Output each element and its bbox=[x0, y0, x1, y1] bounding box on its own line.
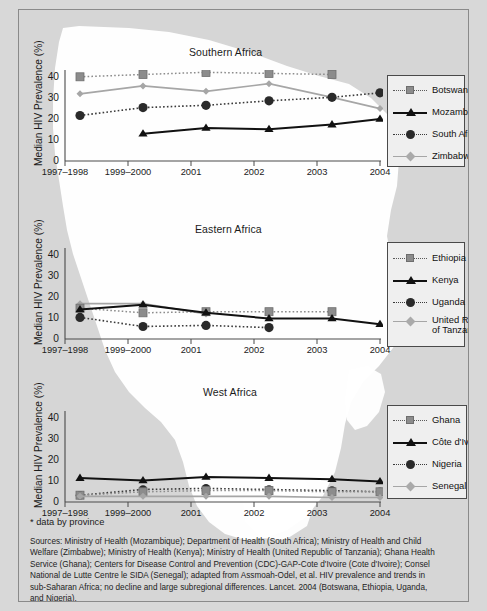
x-tick-2-southern: 2001 bbox=[166, 167, 216, 177]
y-axis-label-southern: Median HIV Prevalence (%) bbox=[33, 40, 44, 166]
y-tick-0-eastern: 0 bbox=[39, 334, 59, 344]
y-tick-0-west: 0 bbox=[39, 497, 59, 507]
x-tick-3-southern: 2002 bbox=[229, 167, 279, 177]
legend-row-botswana[interactable]: Botswana bbox=[393, 83, 469, 97]
legend-label-nigeria: Nigeria bbox=[432, 459, 462, 470]
x-tick-5-southern: 2004 bbox=[355, 167, 405, 177]
x-tick-4-west: 2003 bbox=[292, 508, 342, 518]
legend-row-tanzania[interactable]: United Rep. of Tanzania bbox=[393, 315, 469, 339]
legend-label-mozambique: Mozambique bbox=[432, 107, 469, 118]
legend-label-botswana: Botswana bbox=[432, 85, 469, 96]
zimbabwe-key-icon bbox=[393, 150, 427, 162]
nigeria-key-icon bbox=[393, 458, 427, 470]
y-tick-20-southern: 20 bbox=[39, 114, 59, 124]
sources-text: Sources: Ministry of Health (Mozambique)… bbox=[30, 536, 438, 602]
legend-label-cote-divoire: Côte d'Ivoire bbox=[432, 437, 469, 448]
y-tick-10-west: 10 bbox=[39, 476, 59, 486]
legend-west: Ghana Côte d'Ivoire Nigeria bbox=[387, 405, 467, 499]
panel-title-eastern: Eastern Africa bbox=[195, 223, 262, 235]
panel-title-west: West Africa bbox=[203, 386, 257, 398]
legend-label-senegal: Senegal bbox=[432, 481, 466, 492]
legend-row-kenya[interactable]: Kenya bbox=[393, 273, 459, 287]
x-tick-0-eastern: 1997–1998 bbox=[40, 345, 90, 355]
x-tick-1-southern: 1999–2000 bbox=[103, 167, 153, 177]
legend-row-zimbabwe[interactable]: Zimbabwe bbox=[393, 149, 469, 163]
botswana-key-icon bbox=[393, 84, 427, 96]
panel-title-southern: Southern Africa bbox=[189, 46, 262, 58]
tanzania-key-icon bbox=[393, 315, 427, 327]
legend-eastern: Ethiopia Kenya Uganda bbox=[387, 242, 465, 347]
legend-label-kenya: Kenya bbox=[432, 275, 459, 286]
y-tick-10-southern: 10 bbox=[39, 135, 59, 145]
legend-row-mozambique[interactable]: Mozambique bbox=[393, 105, 469, 119]
x-tick-4-southern: 2003 bbox=[292, 167, 342, 177]
y-tick-10-eastern: 10 bbox=[39, 313, 59, 323]
x-tick-5-west: 2004 bbox=[355, 508, 405, 518]
x-tick-0-southern: 1997–1998 bbox=[40, 167, 90, 177]
kenya-key-icon bbox=[393, 274, 427, 286]
panel-eastern-africa: Eastern Africa Median HIV Prevalence (%)… bbox=[19, 195, 469, 370]
footnote-data-by-province: * data by province bbox=[30, 517, 104, 527]
figure-plate: Southern Africa Median HIV Prevalence (%… bbox=[18, 9, 469, 602]
y-tick-30-west: 30 bbox=[39, 434, 59, 444]
ghana-key-icon bbox=[393, 414, 427, 426]
y-tick-0-southern: 0 bbox=[39, 156, 59, 166]
x-tick-1-eastern: 1999–2000 bbox=[103, 345, 153, 355]
plot-area-southern bbox=[63, 70, 383, 168]
legend-label-ghana: Ghana bbox=[432, 415, 460, 426]
y-axis-label-west: Median HIV Prevalence (%) bbox=[33, 382, 44, 508]
y-tick-20-west: 20 bbox=[39, 455, 59, 465]
legend-row-senegal[interactable]: Senegal bbox=[393, 479, 466, 493]
x-tick-3-eastern: 2002 bbox=[229, 345, 279, 355]
legend-row-uganda[interactable]: Uganda bbox=[393, 295, 465, 309]
x-tick-2-west: 2001 bbox=[166, 508, 216, 518]
legend-southern: Botswana Mozambique South Africa* bbox=[387, 75, 465, 167]
panel-west-africa: West Africa Median HIV Prevalence (%) 40… bbox=[19, 360, 469, 525]
legend-row-ghana[interactable]: Ghana bbox=[393, 413, 460, 427]
legend-row-cote-divoire[interactable]: Côte d'Ivoire bbox=[393, 435, 469, 449]
senegal-key-icon bbox=[393, 480, 427, 492]
legend-row-ethiopia[interactable]: Ethiopia bbox=[393, 251, 466, 265]
x-tick-2-eastern: 2001 bbox=[166, 345, 216, 355]
plot-area-eastern bbox=[63, 248, 383, 346]
legend-row-south-africa[interactable]: South Africa* bbox=[393, 127, 469, 141]
cote-divoire-key-icon bbox=[393, 436, 427, 448]
y-axis-label-eastern: Median HIV Prevalence (%) bbox=[33, 219, 44, 345]
legend-label-uganda: Uganda bbox=[432, 297, 465, 308]
legend-label-ethiopia: Ethiopia bbox=[432, 253, 466, 264]
y-tick-30-southern: 30 bbox=[39, 93, 59, 103]
legend-row-nigeria[interactable]: Nigeria bbox=[393, 457, 462, 471]
y-tick-40-west: 40 bbox=[39, 413, 59, 423]
mozambique-key-icon bbox=[393, 106, 427, 118]
legend-label-south-africa: South Africa* bbox=[432, 129, 469, 140]
legend-label-zimbabwe: Zimbabwe bbox=[432, 151, 469, 162]
legend-label-tanzania: United Rep. of Tanzania bbox=[432, 315, 469, 335]
x-tick-3-west: 2002 bbox=[229, 508, 279, 518]
y-tick-40-southern: 40 bbox=[39, 72, 59, 82]
south-africa-key-icon bbox=[393, 128, 427, 140]
plot-area-west bbox=[63, 411, 383, 509]
y-tick-20-eastern: 20 bbox=[39, 292, 59, 302]
panel-southern-africa: Southern Africa Median HIV Prevalence (%… bbox=[19, 10, 469, 195]
ethiopia-key-icon bbox=[393, 252, 427, 264]
y-tick-30-eastern: 30 bbox=[39, 271, 59, 281]
x-tick-4-eastern: 2003 bbox=[292, 345, 342, 355]
uganda-key-icon bbox=[393, 296, 427, 308]
y-tick-40-eastern: 40 bbox=[39, 250, 59, 260]
x-tick-1-west: 1999–2000 bbox=[103, 508, 153, 518]
figure-hiv-prevalence-trends: Southern Africa Median HIV Prevalence (%… bbox=[0, 0, 487, 611]
